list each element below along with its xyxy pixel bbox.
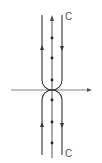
arrow-up-icon [40, 122, 44, 127]
pole-dot [51, 37, 54, 40]
arrow-up-icon [40, 45, 44, 50]
arrow-down-icon [60, 123, 64, 128]
pole-dot [51, 79, 54, 82]
pole-dot [51, 99, 54, 102]
pole-dot [51, 142, 54, 145]
contour-diagram [0, 0, 102, 163]
imaginary-axis-arrow-icon [50, 15, 54, 21]
pole-dot [51, 121, 54, 124]
real-axis-arrow-icon [87, 88, 92, 92]
bottom-contour-label: C [65, 149, 72, 159]
top-contour-label: C [65, 12, 72, 22]
arrow-down-icon [60, 46, 64, 51]
pole-dot [51, 57, 54, 60]
